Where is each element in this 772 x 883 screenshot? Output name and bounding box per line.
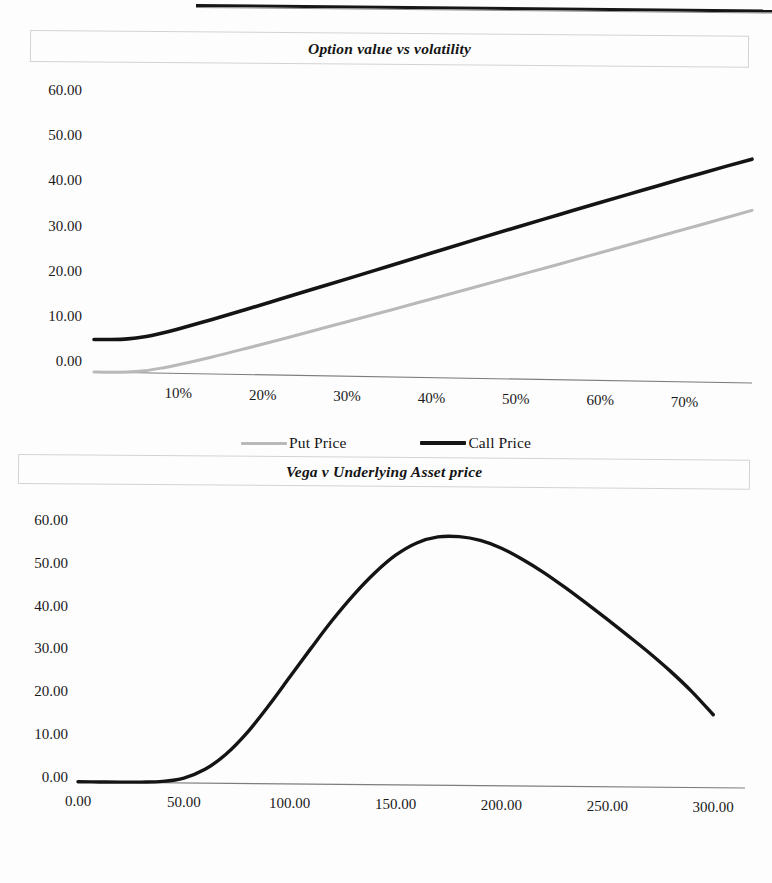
chart-option-value-vs-volatility: Option value vs volatility 60.0050.0040.…	[0, 20, 772, 452]
chart-2-plot-area: 60.0050.0040.0030.0020.0010.000.000.0050…	[0, 452, 772, 883]
y-axis-tick-label: 60.00	[34, 512, 68, 528]
y-axis-tick-label: 50.00	[34, 555, 68, 571]
x-axis-tick-label: 20%	[249, 387, 277, 403]
x-axis-line	[94, 372, 752, 383]
x-axis-tick-label: 100.00	[269, 795, 310, 811]
x-axis-tick-label: 200.00	[481, 797, 522, 813]
x-axis-tick-label: 50%	[502, 391, 530, 407]
page-canvas: Option value vs volatility 60.0050.0040.…	[0, 0, 772, 883]
y-axis-tick-label: 0.00	[56, 353, 82, 369]
x-axis-tick-label: 30%	[333, 388, 361, 404]
x-axis-tick-label: 0.00	[65, 793, 91, 809]
x-axis-tick-label: 70%	[671, 394, 699, 410]
x-axis-tick-label: 60%	[586, 392, 614, 408]
legend-item[interactable]: Put Price	[241, 434, 346, 452]
y-axis-tick-label: 0.00	[42, 769, 68, 785]
x-axis-line	[78, 782, 745, 788]
legend-item[interactable]: Call Price	[420, 434, 531, 452]
legend-label: Call Price	[468, 434, 531, 452]
legend-label: Put Price	[289, 434, 346, 452]
x-axis-tick-label: 150.00	[375, 796, 416, 812]
y-axis-tick-label: 30.00	[34, 640, 68, 656]
y-axis-tick-label: 60.00	[48, 82, 82, 98]
y-axis-tick-label: 40.00	[34, 598, 68, 614]
x-axis-tick-label: 300.00	[693, 799, 734, 815]
y-axis-tick-label: 20.00	[48, 263, 82, 279]
legend-swatch-icon	[420, 441, 466, 445]
x-axis-tick-label: 40%	[418, 390, 446, 406]
x-axis-tick-label: 50.00	[167, 794, 201, 810]
y-axis-tick-label: 40.00	[48, 172, 82, 188]
y-axis-tick-label: 20.00	[34, 683, 68, 699]
chart-vega-vs-underlying-asset-price: Vega v Underlying Asset price 60.0050.00…	[0, 452, 772, 883]
x-axis-tick-label: 250.00	[587, 798, 628, 814]
y-axis-tick-label: 10.00	[34, 726, 68, 742]
x-axis-tick-label: 10%	[165, 385, 193, 401]
chart-1-legend: Put PriceCall Price	[0, 434, 772, 452]
series-line	[94, 210, 752, 372]
series-line	[94, 159, 752, 339]
chart-1-plot-area: 60.0050.0040.0030.0020.0010.000.0010%20%…	[0, 20, 772, 452]
legend-swatch-icon	[241, 442, 287, 445]
y-axis-tick-label: 30.00	[48, 218, 82, 234]
series-line	[78, 536, 713, 782]
y-axis-tick-label: 10.00	[48, 308, 82, 324]
y-axis-tick-label: 50.00	[48, 127, 82, 143]
